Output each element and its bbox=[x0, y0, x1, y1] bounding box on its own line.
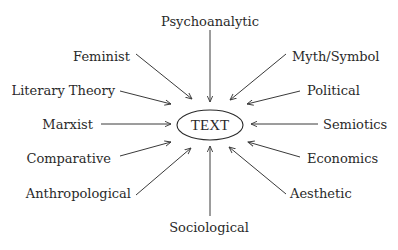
node-psychoanalytic: Psychoanalytic bbox=[161, 14, 259, 29]
arrow-anthropological bbox=[136, 148, 191, 195]
arrow-economics bbox=[248, 142, 300, 157]
node-aesthetic: Aesthetic bbox=[289, 186, 352, 201]
node-anthropological: Anthropological bbox=[25, 186, 131, 201]
node-political: Political bbox=[307, 83, 360, 98]
center-node: TEXT bbox=[177, 110, 243, 140]
node-literary-theory: Literary Theory bbox=[12, 83, 116, 98]
node-comparative: Comparative bbox=[26, 151, 111, 166]
node-myth-symbol: Myth/Symbol bbox=[292, 49, 380, 64]
center-label: TEXT bbox=[191, 117, 229, 133]
node-economics: Economics bbox=[307, 151, 378, 166]
arrow-feminist bbox=[136, 54, 192, 99]
diagram-canvas: TEXT Psychoanalytic Feminist Myth/Symbol… bbox=[0, 0, 398, 250]
arrow-political bbox=[247, 91, 300, 104]
node-marxist: Marxist bbox=[42, 117, 93, 132]
arrow-comparative bbox=[120, 142, 171, 156]
node-semiotics: Semiotics bbox=[323, 117, 387, 132]
node-feminist: Feminist bbox=[73, 49, 131, 64]
arrow-myth-symbol bbox=[230, 54, 286, 100]
arrow-literary-theory bbox=[120, 91, 171, 104]
arrow-aesthetic bbox=[229, 147, 286, 194]
node-sociological: Sociological bbox=[169, 220, 249, 235]
diagram-svg: TEXT Psychoanalytic Feminist Myth/Symbol… bbox=[0, 0, 398, 250]
